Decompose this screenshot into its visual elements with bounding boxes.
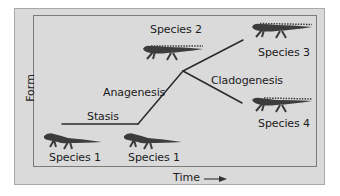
cladogenesis-label: Cladogenesis bbox=[211, 75, 283, 87]
salamander-icon bbox=[250, 19, 314, 41]
right-arrow-icon bbox=[204, 174, 228, 182]
species-label: Species 1 bbox=[128, 152, 180, 164]
species-label: Species 4 bbox=[258, 118, 310, 130]
salamander-icon bbox=[250, 94, 314, 116]
stasis-label: Stasis bbox=[87, 111, 119, 123]
species-label: Species 3 bbox=[258, 47, 310, 59]
y-axis-label: Form bbox=[25, 73, 37, 103]
species-label: Species 2 bbox=[150, 24, 202, 36]
anagenesis-label: Anagenesis bbox=[103, 87, 165, 99]
salamander-icon bbox=[122, 130, 184, 152]
x-axis-label-text: Time bbox=[173, 172, 200, 184]
salamander-icon bbox=[141, 41, 205, 63]
x-axis-label: Time bbox=[173, 172, 228, 184]
species-label: Species 1 bbox=[49, 152, 101, 164]
salamander-icon bbox=[42, 130, 104, 152]
